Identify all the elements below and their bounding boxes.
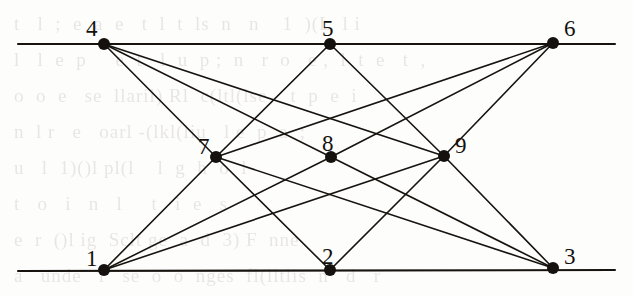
node-label-4: 4 [86, 17, 98, 40]
node-label-8: 8 [322, 132, 334, 155]
edge-1-8 [104, 157, 331, 270]
node-label-3: 3 [564, 245, 576, 268]
node-7 [210, 151, 222, 163]
node-6 [547, 37, 559, 49]
node-label-9: 9 [455, 134, 467, 157]
edge-2-7 [216, 157, 330, 270]
node-label-5: 5 [322, 17, 334, 40]
edge-1-9 [104, 156, 444, 270]
edge-3-8 [331, 157, 553, 268]
edge-1-7 [104, 157, 216, 270]
figure-page: t l ; e a e t l t ls n n 1 )(L l il l e … [0, 0, 633, 296]
node-label-6: 6 [564, 17, 576, 40]
edge-5-9 [330, 44, 444, 156]
node-label-1: 1 [86, 247, 98, 270]
edge-4-8 [104, 44, 331, 157]
node-1 [98, 264, 110, 276]
edge-6-7 [216, 43, 553, 157]
horizontal-rules-group [18, 44, 615, 271]
edge-3-7 [216, 157, 553, 268]
node-label-7: 7 [198, 135, 210, 158]
node-4 [98, 38, 110, 50]
nodes-group [98, 37, 559, 276]
edge-6-8 [331, 43, 553, 157]
node-9 [438, 150, 450, 162]
node-label-2: 2 [322, 245, 334, 268]
node-3 [547, 262, 559, 274]
edge-3-9 [444, 156, 553, 268]
edge-5-7 [216, 44, 330, 157]
